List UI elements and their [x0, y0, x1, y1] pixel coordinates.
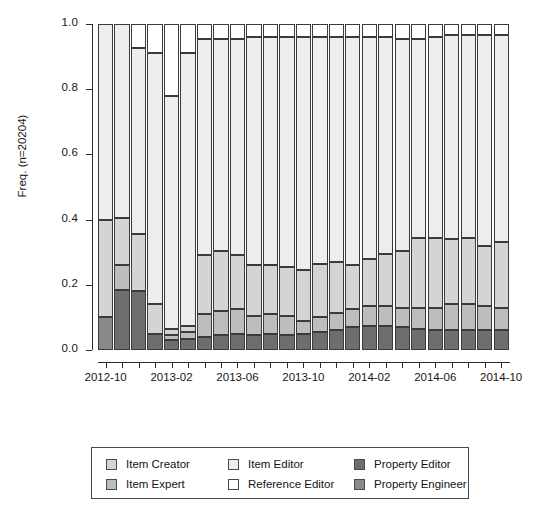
x-axis-tick-label: 2013-06: [216, 371, 258, 383]
bar-2014-03[interactable]: [378, 24, 393, 350]
plot-area: [98, 24, 510, 350]
bar-2014-06[interactable]: [428, 24, 443, 350]
bar-segment: [180, 326, 195, 333]
bar-2013-10[interactable]: [296, 24, 311, 350]
y-axis-tick: [86, 350, 92, 351]
bar-2014-10[interactable]: [494, 24, 509, 350]
legend-item-label: Item Expert: [126, 478, 185, 490]
bar-2012-10[interactable]: [98, 24, 113, 350]
bar-2014-04[interactable]: [395, 24, 410, 350]
bar-segment: [411, 308, 426, 329]
bar-2013-03[interactable]: [180, 24, 195, 350]
bar-2014-02[interactable]: [362, 24, 377, 350]
legend-item[interactable]: Reference Editor: [228, 474, 334, 494]
bar-segment: [246, 316, 261, 336]
legend-swatch-icon: [354, 479, 365, 490]
bar-segment: [164, 335, 179, 340]
bar-2012-12[interactable]: [131, 24, 146, 350]
bar-segment: [329, 37, 344, 262]
bar-segment: [477, 306, 492, 330]
bar-2013-06[interactable]: [230, 24, 245, 350]
x-axis-tick: [452, 362, 453, 368]
y-axis-tick-label: 0.0: [0, 342, 78, 354]
y-axis-tick-label: 1.0: [0, 16, 78, 28]
legend-item[interactable]: Item Expert: [106, 474, 190, 494]
bar-2013-09[interactable]: [279, 24, 294, 350]
bar-segment: [494, 330, 509, 350]
legend-item-label: Property Engineer: [374, 478, 467, 490]
y-axis-tick: [86, 154, 92, 155]
x-axis-tick: [139, 362, 140, 368]
legend-swatch-icon: [354, 459, 365, 470]
bar-segment: [378, 306, 393, 326]
bar-2014-09[interactable]: [477, 24, 492, 350]
bar-segment: [230, 309, 245, 333]
x-axis-tick: [188, 362, 189, 368]
bar-2013-05[interactable]: [213, 24, 228, 350]
bar-segment: [494, 242, 509, 307]
x-axis-tick: [155, 362, 156, 368]
x-axis-tick: [221, 362, 222, 368]
bar-segment: [98, 24, 113, 220]
x-axis-tick: [303, 362, 304, 368]
bar-segment: [461, 238, 476, 305]
bar-segment: [477, 246, 492, 306]
bar-2013-02[interactable]: [164, 24, 179, 350]
bar-segment: [213, 24, 228, 39]
legend-item[interactable]: Property Editor: [354, 454, 467, 474]
legend-item[interactable]: Item Creator: [106, 454, 190, 474]
bar-2012-11[interactable]: [114, 24, 129, 350]
y-axis-tick-label: 0.8: [0, 81, 78, 93]
x-axis-tick-label: 2013-10: [282, 371, 324, 383]
bar-segment: [395, 308, 410, 328]
bar-2014-01[interactable]: [345, 24, 360, 350]
legend-item-label: Reference Editor: [248, 478, 334, 490]
bar-2013-07[interactable]: [246, 24, 261, 350]
bar-segment: [461, 24, 476, 35]
bar-2013-01[interactable]: [147, 24, 162, 350]
bar-2013-04[interactable]: [197, 24, 212, 350]
legend-item[interactable]: Property Engineer: [354, 474, 467, 494]
bar-2014-08[interactable]: [461, 24, 476, 350]
bar-segment: [197, 255, 212, 314]
x-axis-tick: [336, 362, 337, 368]
bar-2013-11[interactable]: [312, 24, 327, 350]
bar-2013-12[interactable]: [329, 24, 344, 350]
bar-segment: [131, 48, 146, 234]
bar-segment: [114, 218, 129, 265]
y-axis-tick: [86, 220, 92, 221]
bar-segment: [362, 24, 377, 37]
bar-segment: [345, 309, 360, 327]
bar-2014-07[interactable]: [444, 24, 459, 350]
bar-2013-08[interactable]: [263, 24, 278, 350]
bar-segment: [345, 265, 360, 309]
bar-segment: [345, 37, 360, 265]
bar-segment: [230, 334, 245, 350]
bar-segment: [279, 24, 294, 37]
bar-segment: [378, 24, 393, 37]
bar-segment: [164, 340, 179, 350]
bar-segment: [296, 334, 311, 350]
x-axis-tick: [435, 362, 436, 368]
bar-segment: [362, 306, 377, 326]
y-axis-tick-label: 0.6: [0, 146, 78, 158]
bar-segment: [230, 24, 245, 39]
bar-segment: [114, 24, 129, 218]
bar-segment: [296, 321, 311, 334]
x-axis-tick: [369, 362, 370, 368]
bar-segment: [494, 35, 509, 242]
x-axis-tick-label: 2014-06: [414, 371, 456, 383]
bar-segment: [131, 24, 146, 48]
bar-segment: [329, 313, 344, 331]
bar-2014-05[interactable]: [411, 24, 426, 350]
bar-segment: [477, 330, 492, 350]
bar-segment: [114, 290, 129, 350]
bar-segment: [279, 316, 294, 336]
y-axis-tick-label: 0.4: [0, 212, 78, 224]
x-axis-tick-label: 2013-02: [150, 371, 192, 383]
bar-segment: [180, 339, 195, 350]
bar-segment: [131, 234, 146, 291]
legend-item[interactable]: Item Editor: [228, 454, 334, 474]
y-axis-tick-label: 0.2: [0, 277, 78, 289]
x-axis-tick: [419, 362, 420, 368]
